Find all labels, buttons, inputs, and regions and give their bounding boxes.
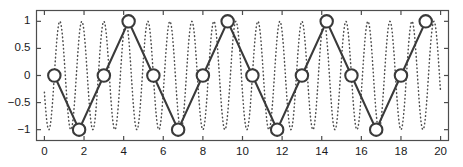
x-tick-label: 14	[315, 145, 328, 157]
data-point-marker	[246, 69, 258, 81]
x-tick-label: 20	[434, 145, 447, 157]
x-tick-label: 10	[236, 145, 249, 157]
data-point-marker	[122, 15, 134, 27]
data-point-marker	[147, 69, 159, 81]
x-tick-label: 18	[395, 145, 408, 157]
y-tick-label: 1	[24, 14, 30, 26]
data-point-marker	[320, 15, 332, 27]
x-tick-label: 6	[160, 145, 166, 157]
data-point-marker	[73, 123, 85, 135]
data-point-marker	[345, 69, 357, 81]
data-point-marker	[271, 123, 283, 135]
figure-container: −1−0.500.5102468101214161820	[0, 0, 463, 167]
x-tick-label: 4	[120, 145, 127, 157]
y-tick-label: 0.5	[15, 41, 31, 53]
x-tick-label: 2	[81, 145, 87, 157]
y-tick-label: −1	[17, 123, 30, 135]
data-point-marker	[395, 69, 407, 81]
data-point-marker	[370, 123, 382, 135]
data-point-marker	[172, 123, 184, 135]
x-tick-label: 8	[200, 145, 206, 157]
aliasing-chart: −1−0.500.5102468101214161820	[0, 0, 463, 167]
x-tick-label: 16	[355, 145, 368, 157]
y-tick-label: −0.5	[8, 96, 31, 108]
data-point-marker	[420, 15, 432, 27]
data-point-marker	[197, 69, 209, 81]
data-point-marker	[221, 15, 233, 27]
x-tick-label: 0	[41, 145, 47, 157]
x-tick-label: 12	[276, 145, 289, 157]
data-point-marker	[296, 69, 308, 81]
data-point-marker	[98, 69, 110, 81]
data-point-marker	[48, 69, 60, 81]
y-tick-label: 0	[24, 69, 30, 81]
